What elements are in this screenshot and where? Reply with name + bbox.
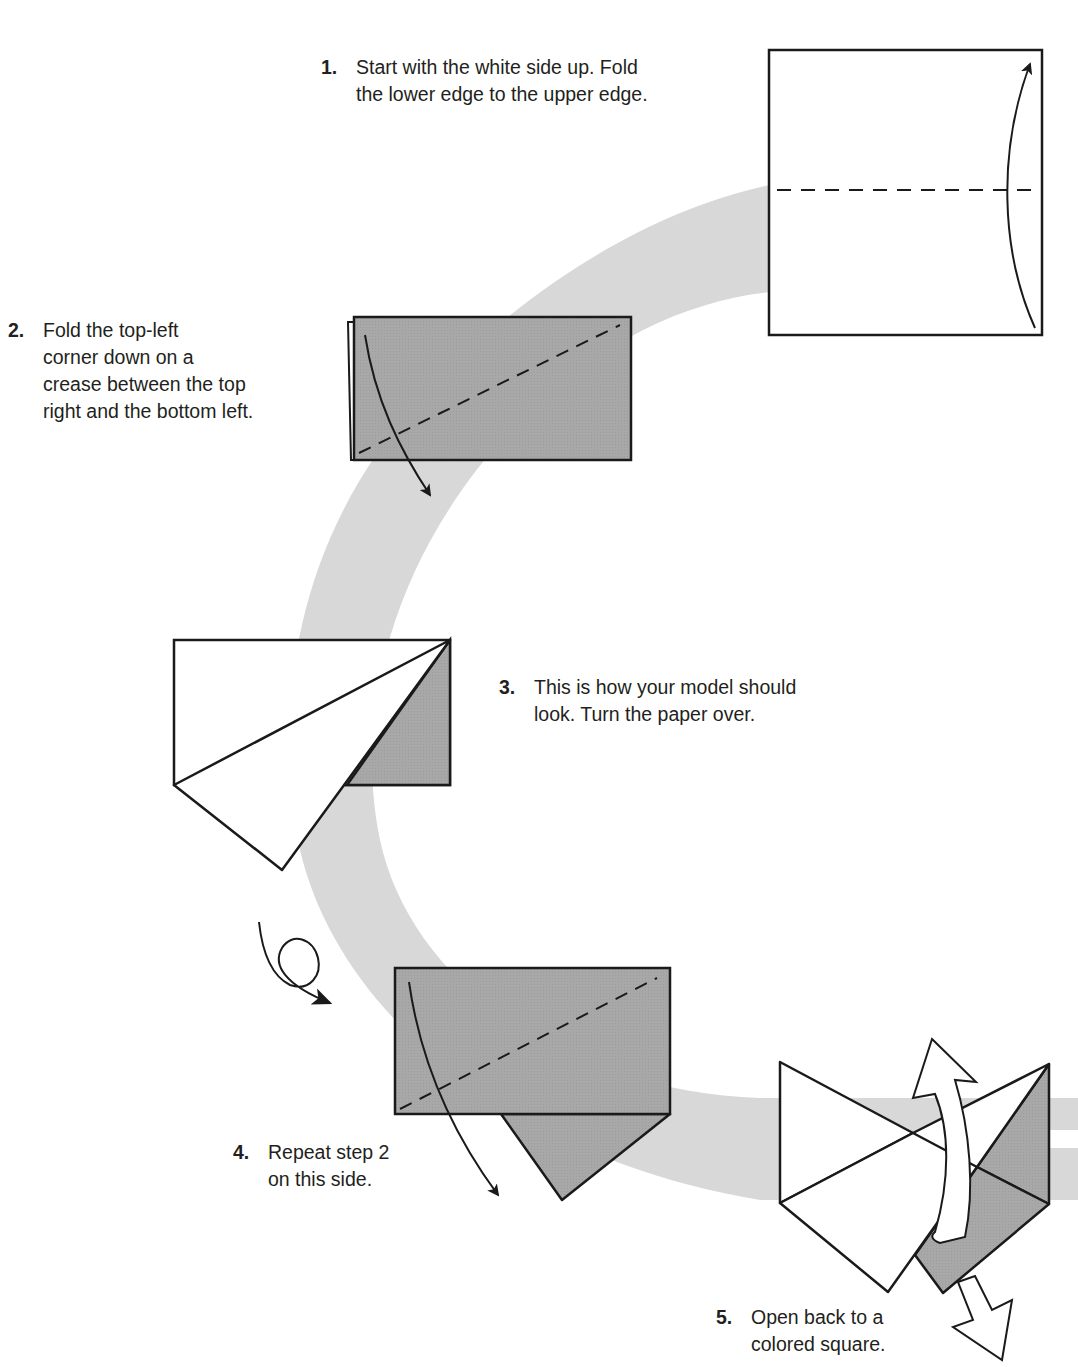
step-1-caption: 1. Start with the white side up. Fold th… bbox=[321, 54, 761, 108]
step1-diagram bbox=[769, 50, 1042, 335]
step-number: 4. bbox=[233, 1139, 249, 1166]
step-text: Start with the white side up. Fold the l… bbox=[321, 54, 761, 108]
paper-square bbox=[769, 50, 1042, 335]
step-text: This is how your model should look. Turn… bbox=[499, 674, 899, 728]
step-text: Open back to a colored square. bbox=[716, 1304, 956, 1358]
step-text: Fold the top-left corner down on a creas… bbox=[8, 317, 338, 425]
paper-rectangle bbox=[354, 317, 631, 460]
step-5-caption: 5. Open back to a colored square. bbox=[716, 1304, 956, 1358]
step-number: 1. bbox=[321, 54, 337, 81]
unfold-down-arrow-icon bbox=[953, 1276, 1012, 1360]
turn-over-icon bbox=[259, 922, 330, 1003]
step-text: Repeat step 2 on this side. bbox=[233, 1139, 453, 1193]
step-number: 2. bbox=[8, 317, 24, 344]
step-4-caption: 4. Repeat step 2 on this side. bbox=[233, 1139, 453, 1193]
paper-rectangle bbox=[395, 968, 670, 1114]
step-2-caption: 2. Fold the top-left corner down on a cr… bbox=[8, 317, 338, 425]
step-number: 3. bbox=[499, 674, 515, 701]
step-number: 5. bbox=[716, 1304, 732, 1331]
step-3-caption: 3. This is how your model should look. T… bbox=[499, 674, 899, 728]
